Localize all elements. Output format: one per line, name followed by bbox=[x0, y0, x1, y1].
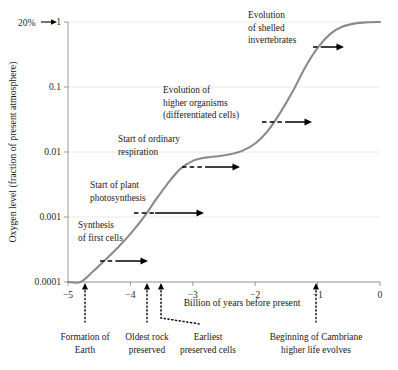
y-tick-label: 0.0001 bbox=[35, 276, 62, 287]
x-tick-label: −4 bbox=[125, 289, 135, 300]
arrow-head-icon-evolution-shelled-invertebrates bbox=[337, 44, 345, 51]
annotation-label-start-plant-photosynthesis: Start of plant bbox=[90, 180, 139, 190]
arrow-head-icon-evolution-higher-organisms bbox=[305, 119, 313, 126]
annotation-label-synthesis-first-cells: of first cells bbox=[78, 233, 123, 243]
annotation-label-evolution-shelled-invertebrates: Evolution bbox=[248, 10, 285, 20]
y-tick-label: 0.1 bbox=[49, 81, 61, 92]
event-annotations-group: Synthesisof first cellsStart of plantpho… bbox=[78, 10, 344, 264]
pointer-label-beginning-of-cambriane: higher life evolves bbox=[281, 345, 351, 355]
arrow-head-icon-synthesis-first-cells bbox=[141, 258, 149, 265]
arrow-head-icon-start-ordinary-respiration bbox=[233, 164, 241, 171]
y-tick-label: 0.01 bbox=[44, 146, 61, 157]
y-tick-label: 1 bbox=[56, 16, 61, 27]
pointer-label-oldest-rock-preserved: preserved bbox=[129, 345, 166, 355]
twenty-percent-label: 20% bbox=[18, 17, 36, 28]
annotation-label-evolution-higher-organisms: Evolution of bbox=[163, 85, 211, 95]
pointer-head-icon-formation-of-earth bbox=[82, 283, 88, 290]
twenty-percent-annotation: 20% bbox=[18, 17, 57, 28]
tickmarks-group bbox=[64, 22, 380, 286]
annotation-label-evolution-higher-organisms: (differentiated cells) bbox=[163, 110, 239, 121]
pointer-head-icon-oldest-rock-preserved bbox=[144, 283, 150, 290]
y-axis-title: Oxygen level (fraction of present atmosp… bbox=[7, 62, 19, 243]
gridlines-group bbox=[68, 22, 380, 282]
annotation-label-synthesis-first-cells: Synthesis bbox=[78, 220, 114, 230]
annotation-label-start-plant-photosynthesis: photosynthesis bbox=[90, 193, 146, 203]
arrow-head-icon-start-plant-photosynthesis bbox=[197, 210, 205, 217]
x-axis-title: Billion of years before present bbox=[184, 297, 301, 308]
pointer-label-beginning-of-cambriane: Beginning of Cambriane bbox=[270, 332, 363, 342]
annotation-label-evolution-higher-organisms: higher organisms bbox=[163, 98, 228, 108]
pointer-label-formation-of-earth: Formation of bbox=[60, 332, 110, 342]
x-tick-label: −1 bbox=[312, 289, 322, 300]
pointer-label-formation-of-earth: Earth bbox=[75, 345, 96, 355]
chart-svg: 10.10.010.0010.0001−5−4−3−2−10 Synthesis… bbox=[0, 0, 398, 370]
x-tick-label: −5 bbox=[63, 289, 73, 300]
pointer-head-icon-earliest-preserved-cells bbox=[158, 283, 164, 290]
pointer-label-earliest-preserved-cells: Earliest bbox=[194, 332, 223, 342]
annotation-label-evolution-shelled-invertebrates: invertebrates bbox=[248, 35, 297, 45]
pointer-label-oldest-rock-preserved: Oldest rock bbox=[125, 332, 169, 342]
oxygen-level-chart: 10.10.010.0010.0001−5−4−3−2−10 Synthesis… bbox=[0, 0, 398, 370]
tick-labels-group: 10.10.010.0010.0001−5−4−3−2−10 bbox=[35, 16, 383, 300]
x-tick-label: 0 bbox=[378, 289, 383, 300]
annotation-label-start-ordinary-respiration: respiration bbox=[118, 147, 158, 157]
axis-titles-group: Billion of years before presentOxygen le… bbox=[7, 62, 301, 308]
annotation-label-evolution-shelled-invertebrates: of shelled bbox=[248, 23, 285, 33]
pointer-label-earliest-preserved-cells: preserved cells bbox=[180, 345, 236, 355]
y-tick-label: 0.001 bbox=[39, 211, 61, 222]
annotation-label-start-ordinary-respiration: Start of ordinary bbox=[118, 134, 180, 144]
